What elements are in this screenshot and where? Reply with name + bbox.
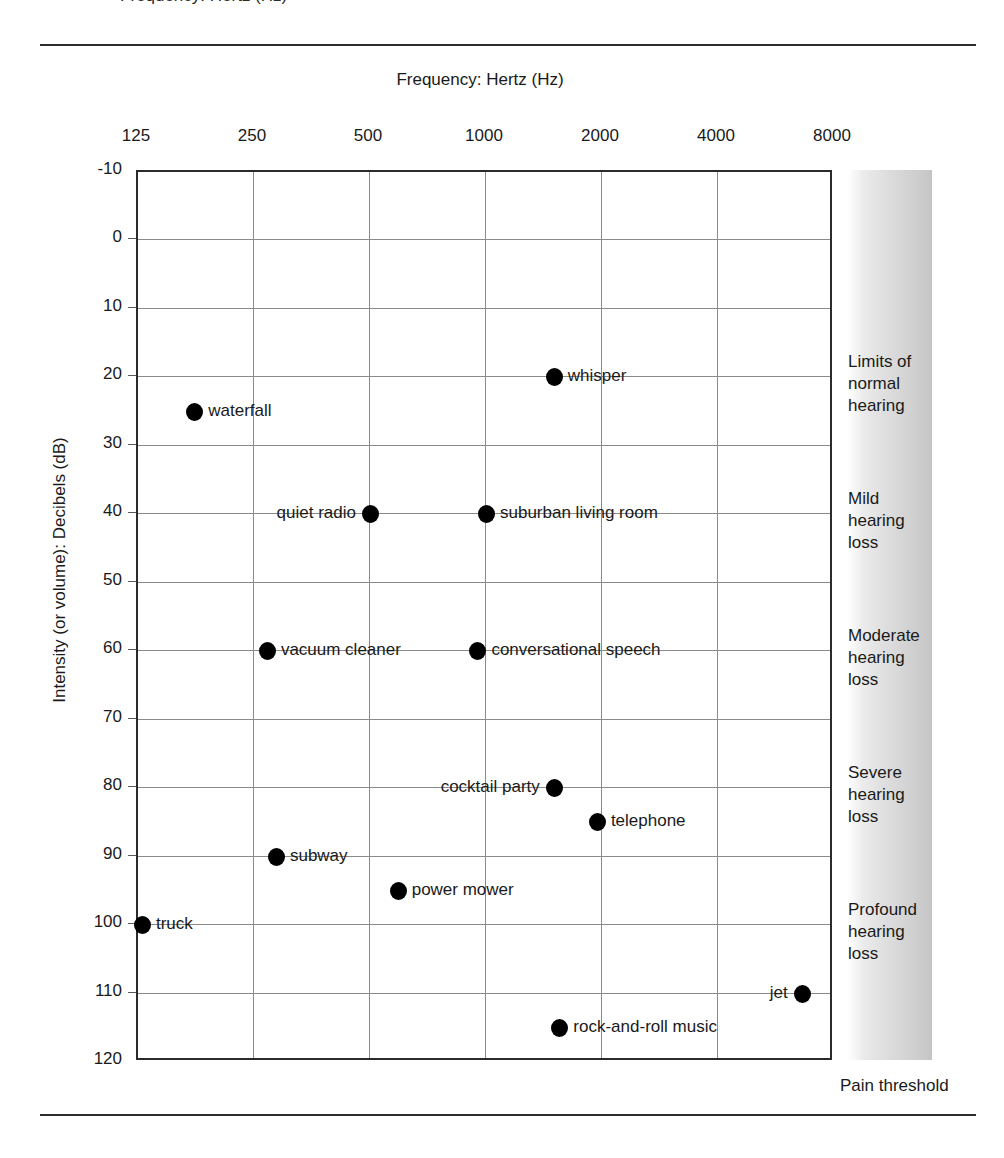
x-axis-tick-4000: 4000: [681, 126, 751, 146]
gridline-vertical: [253, 172, 254, 1058]
gridline-horizontal: [138, 924, 830, 925]
gridline-horizontal: [138, 308, 830, 309]
data-point-label: jet: [770, 983, 788, 1003]
gridline-horizontal: [138, 719, 830, 720]
data-point-marker: [469, 642, 486, 660]
gridline-horizontal: [138, 445, 830, 446]
mild-hearing-loss-label: Mildhearingloss: [848, 488, 998, 554]
profound-hearing-loss-label: Profoundhearingloss: [848, 899, 998, 965]
clipped-top-caption: Frequency: Hertz (Hz): [120, 0, 720, 8]
moderate-hearing-loss-label: Moderatehearingloss: [848, 625, 998, 691]
y-axis-tick-mark: [128, 307, 136, 308]
data-point-label: vacuum cleaner: [281, 640, 401, 660]
x-axis-tick-250: 250: [217, 126, 287, 146]
y-axis-tick-mark: [128, 444, 136, 445]
label-line: Mild: [848, 488, 998, 510]
y-axis-tick-100: 100: [60, 912, 122, 932]
y-axis-tick-50: 50: [60, 570, 122, 590]
data-point-label: truck: [156, 914, 193, 934]
x-axis-tick-500: 500: [333, 126, 403, 146]
data-point-label: power mower: [412, 880, 514, 900]
label-line: Limits of: [848, 351, 998, 373]
data-point-marker: [546, 779, 563, 797]
gridline-horizontal: [138, 993, 830, 994]
label-line: hearing: [848, 647, 998, 669]
data-point-marker: [362, 505, 379, 523]
data-point-label: rock-and-roll music: [573, 1017, 717, 1037]
gridline-vertical: [369, 172, 370, 1058]
data-point-marker: [478, 505, 495, 523]
y-axis-tick-mark: [128, 855, 136, 856]
y-axis-tick-80: 80: [60, 775, 122, 795]
bottom-rule: [40, 1114, 976, 1116]
data-point-label: conversational speech: [491, 640, 660, 660]
label-line: Profound: [848, 899, 998, 921]
data-point-label: waterfall: [208, 401, 271, 421]
gridline-horizontal: [138, 376, 830, 377]
data-point-label: telephone: [611, 811, 686, 831]
label-line: hearing: [848, 921, 998, 943]
y-axis-tick-mark: [128, 992, 136, 993]
gridline-vertical: [601, 172, 602, 1058]
data-point-label: quiet radio: [277, 503, 356, 523]
data-point-marker: [259, 642, 276, 660]
x-axis-tick-8000: 8000: [797, 126, 867, 146]
y-axis-tick-mark: [128, 786, 136, 787]
data-point-marker: [794, 985, 811, 1003]
y-axis-tick-90: 90: [60, 844, 122, 864]
y-axis-tick-70: 70: [60, 707, 122, 727]
data-point-marker: [186, 403, 203, 421]
gridline-horizontal: [138, 582, 830, 583]
y-axis-tick-30: 30: [60, 433, 122, 453]
y-axis-tick-120: 120: [60, 1049, 122, 1069]
label-line: loss: [848, 943, 998, 965]
data-point-marker: [551, 1019, 568, 1037]
x-axis-tick-125: 125: [101, 126, 171, 146]
pain-threshold-label: Pain threshold: [840, 1076, 949, 1096]
plot-area: whisperwaterfallquiet radiosuburban livi…: [136, 170, 832, 1060]
y-axis-tick-mark: [128, 512, 136, 513]
label-line: hearing: [848, 395, 998, 417]
label-line: loss: [848, 532, 998, 554]
x-axis-tick-2000: 2000: [565, 126, 635, 146]
label-line: loss: [848, 669, 998, 691]
y-axis-tick-mark: [128, 581, 136, 582]
gridline-vertical: [717, 172, 718, 1058]
label-line: normal: [848, 373, 998, 395]
label-line: hearing: [848, 510, 998, 532]
data-point-label: suburban living room: [500, 503, 658, 523]
top-rule: [40, 44, 976, 46]
y-axis-tick-60: 60: [60, 638, 122, 658]
data-point-marker: [134, 916, 151, 934]
data-point-label: cocktail party: [441, 777, 540, 797]
label-line: Moderate: [848, 625, 998, 647]
y-axis-tick-20: 20: [60, 364, 122, 384]
data-point-label: subway: [290, 846, 348, 866]
y-axis-tick-0: 0: [60, 227, 122, 247]
limits-of-normal-hearing-label: Limits ofnormalhearing: [848, 351, 998, 417]
x-axis-tick-1000: 1000: [449, 126, 519, 146]
y-axis-tick-neg10: -10: [60, 159, 122, 179]
data-point-marker: [546, 368, 563, 386]
y-axis-tick-mark: [128, 375, 136, 376]
y-axis-tick-mark: [128, 649, 136, 650]
label-line: hearing: [848, 784, 998, 806]
severe-hearing-loss-label: Severehearingloss: [848, 762, 998, 828]
data-point-marker: [589, 813, 606, 831]
data-point-marker: [268, 848, 285, 866]
y-axis-tick-mark: [128, 718, 136, 719]
gridline-horizontal: [138, 239, 830, 240]
y-axis-tick-40: 40: [60, 501, 122, 521]
gridline-horizontal: [138, 856, 830, 857]
x-axis-title: Frequency: Hertz (Hz): [0, 70, 960, 90]
gridline-vertical: [485, 172, 486, 1058]
y-axis-tick-110: 110: [60, 981, 122, 1001]
y-axis-tick-mark: [128, 238, 136, 239]
label-line: Severe: [848, 762, 998, 784]
data-point-marker: [390, 882, 407, 900]
y-axis-tick-10: 10: [60, 296, 122, 316]
label-line: loss: [848, 806, 998, 828]
data-point-label: whisper: [568, 366, 627, 386]
